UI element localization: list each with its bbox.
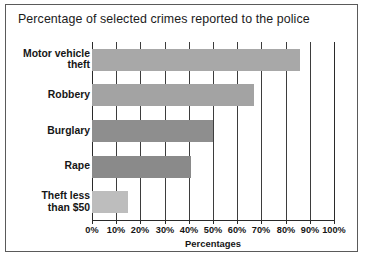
category-label-line: Motor vehicle — [14, 48, 90, 59]
category-label-line: Robbery — [14, 89, 90, 100]
bar-theft-less-than-50 — [92, 191, 128, 213]
category-label-theft-less-than-50: Theft lessthan $50 — [14, 190, 90, 213]
category-label-line: Burglary — [14, 125, 90, 136]
x-tick-mark — [213, 220, 214, 224]
bar-burglary — [92, 120, 213, 142]
bar-robbery — [92, 84, 254, 106]
x-tick-mark — [189, 220, 190, 224]
category-label-line: than $50 — [14, 202, 90, 213]
category-label-rape: Rape — [14, 160, 90, 171]
category-label-burglary: Burglary — [14, 125, 90, 136]
plot-area — [92, 42, 334, 220]
x-tick-mark — [140, 220, 141, 224]
bar-rape — [92, 156, 191, 178]
category-label-motor-vehicle-theft: Motor vehicletheft — [14, 48, 90, 71]
x-tick-mark — [165, 220, 166, 224]
category-label-robbery: Robbery — [14, 89, 90, 100]
x-tick-mark — [116, 220, 117, 224]
chart-title: Percentage of selected crimes reported t… — [18, 12, 348, 26]
gridline-100pct — [334, 42, 335, 220]
x-tick-label: 100% — [319, 225, 349, 235]
x-tick-mark — [286, 220, 287, 224]
chart-figure: Percentage of selected crimes reported t… — [0, 0, 366, 260]
x-tick-mark — [92, 220, 93, 224]
x-tick-mark — [334, 220, 335, 224]
x-tick-mark — [310, 220, 311, 224]
category-label-line: theft — [14, 59, 90, 70]
x-tick-mark — [237, 220, 238, 224]
category-label-line: Theft less — [14, 190, 90, 201]
x-tick-mark — [261, 220, 262, 224]
category-label-line: Rape — [14, 160, 90, 171]
bar-motor-vehicle-theft — [92, 49, 300, 71]
x-axis-title: Percentages — [92, 238, 334, 249]
gridline-90pct — [310, 42, 311, 220]
